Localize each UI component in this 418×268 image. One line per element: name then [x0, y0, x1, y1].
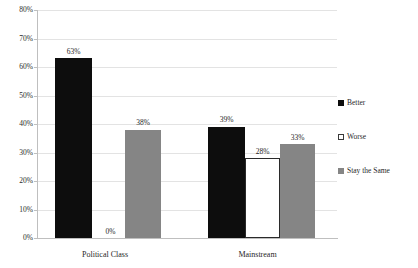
legend: Better Worse Stay the Same	[338, 98, 418, 200]
legend-item-worse[interactable]: Worse	[338, 132, 418, 166]
legend-label-stay-the-same: Stay the Same	[347, 166, 390, 175]
x-axis-category-label-mainstream: Mainstream	[180, 250, 335, 260]
legend-label-better: Better	[347, 98, 365, 107]
legend-item-stay-the-same[interactable]: Stay the Same	[338, 166, 418, 200]
x-axis-line	[37, 238, 338, 239]
legend-item-better[interactable]: Better	[338, 98, 418, 132]
y-axis-tick-label-60: 60%	[3, 63, 33, 71]
legend-swatch-worse-icon	[338, 134, 344, 140]
y-axis-tick-label-80: 80%	[3, 6, 33, 14]
data-label-political-class-stay-the-same: 38%	[125, 118, 161, 127]
y-axis-tick-label-40: 40%	[3, 120, 33, 128]
y-axis-labels: 80% 70% 60% 50% 40% 30% 20% 10% 0%	[0, 0, 33, 268]
data-label-mainstream-worse: 28%	[245, 147, 280, 156]
y-axis-tick-label-20: 20%	[3, 177, 33, 185]
y-axis-tick-label-0: 0%	[3, 234, 33, 242]
x-axis-category-label-political-class: Political Class	[25, 250, 185, 260]
bar-chart: 80% 70% 60% 50% 40% 30% 20% 10% 0% 63% 0…	[0, 0, 418, 268]
data-label-political-class-better: 63%	[55, 47, 92, 56]
y-axis-tick-label-30: 30%	[3, 149, 33, 157]
data-label-mainstream-better: 39%	[208, 115, 245, 124]
bar-political-class-stay-the-same[interactable]	[125, 130, 161, 238]
y-axis-tick-label-10: 10%	[3, 206, 33, 214]
y-axis-tick-label-50: 50%	[3, 92, 33, 100]
bars-layer	[37, 10, 337, 238]
data-label-political-class-worse: 0%	[92, 227, 129, 236]
y-tick-0	[34, 238, 37, 239]
bar-political-class-better[interactable]	[55, 58, 92, 238]
legend-label-worse: Worse	[347, 132, 366, 141]
data-label-mainstream-stay-the-same: 33%	[280, 133, 315, 142]
bar-mainstream-better[interactable]	[208, 127, 245, 238]
bar-mainstream-stay-the-same[interactable]	[280, 144, 315, 238]
legend-swatch-stay-the-same-icon	[338, 168, 344, 174]
legend-swatch-better-icon	[338, 100, 344, 106]
y-axis-tick-label-70: 70%	[3, 35, 33, 43]
bar-mainstream-worse[interactable]	[245, 158, 280, 238]
